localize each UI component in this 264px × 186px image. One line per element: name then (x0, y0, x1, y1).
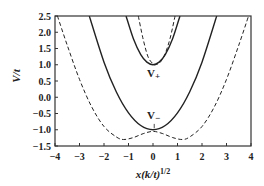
x-tick-label: −2 (99, 151, 110, 162)
y-tick-label: 1.5 (39, 43, 52, 54)
y-tick-label: 2.5 (39, 11, 52, 22)
annotation-v-plus: V+ (147, 67, 160, 81)
x-tick-label: −1 (123, 151, 134, 162)
x-tick-label: 3 (224, 151, 229, 162)
x-tick-label: 0 (151, 151, 156, 162)
series-line-2 (138, 16, 175, 65)
y-tick-label: −1.5 (33, 141, 51, 152)
plot-frame (55, 16, 251, 146)
x-tick-label: 1 (175, 151, 180, 162)
y-tick-label: 0.5 (39, 76, 52, 87)
y-tick-label: −1.0 (33, 124, 51, 135)
chart: −4−3−2−1012342.52.01.51.00.50.0−0.5−1.0−… (0, 0, 264, 186)
y-tick-label: −0.5 (33, 108, 51, 119)
x-axis-label: x(k/t)1/2 (135, 167, 171, 181)
x-tick-label: 2 (200, 151, 205, 162)
y-tick-label: 1.0 (39, 59, 52, 70)
x-tick-label: 4 (249, 151, 254, 162)
y-axis-label: V/t (10, 68, 22, 82)
y-tick-label: 0.0 (39, 92, 52, 103)
x-tick-label: −4 (50, 151, 61, 162)
series-line-1 (126, 16, 180, 65)
y-tick-label: 2.0 (39, 27, 52, 38)
x-tick-label: −3 (74, 151, 85, 162)
annotation-v-minus: V− (147, 109, 160, 123)
